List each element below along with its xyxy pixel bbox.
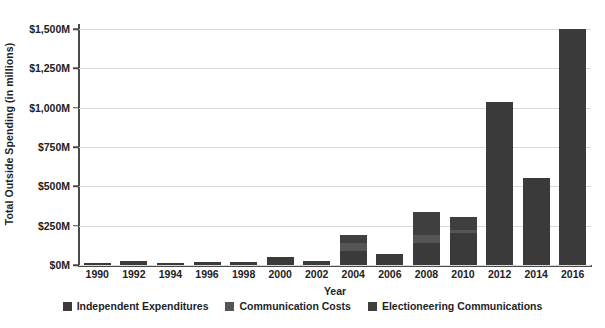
gridline xyxy=(79,265,591,266)
bar-group[interactable] xyxy=(84,263,111,265)
bar-segment[interactable] xyxy=(194,262,221,265)
chart-legend: Independent ExpendituresCommunication Co… xyxy=(0,300,605,312)
x-axis-tick-label: 2016 xyxy=(561,268,584,280)
bar-segment[interactable] xyxy=(413,212,440,235)
bar-segment[interactable] xyxy=(340,235,367,244)
bar-segment[interactable] xyxy=(340,251,367,265)
bar-group[interactable] xyxy=(303,261,330,265)
bar-segment[interactable] xyxy=(523,178,550,265)
bar-segment[interactable] xyxy=(157,263,184,265)
legend-item[interactable]: Electioneering Communications xyxy=(368,300,542,312)
bar-segment[interactable] xyxy=(413,235,440,242)
bar-segment[interactable] xyxy=(340,243,367,251)
x-axis-tick-label: 2004 xyxy=(342,268,365,280)
bar-group[interactable] xyxy=(340,235,367,265)
bar-segment[interactable] xyxy=(376,254,403,265)
legend-item[interactable]: Independent Expenditures xyxy=(63,300,209,312)
x-axis-tick-label: 1996 xyxy=(195,268,218,280)
x-axis-tick-label: 2008 xyxy=(415,268,438,280)
x-axis-title: Year xyxy=(79,285,591,297)
bar-segment[interactable] xyxy=(303,261,330,265)
bar-segment[interactable] xyxy=(559,29,586,265)
legend-swatch-icon xyxy=(63,302,72,311)
bar-segment[interactable] xyxy=(486,102,513,265)
x-axis-tick-label: 1992 xyxy=(122,268,145,280)
x-axis-tick-label: 2006 xyxy=(378,268,401,280)
bar-group[interactable] xyxy=(559,29,586,265)
bar-segment[interactable] xyxy=(120,261,147,265)
bar-group[interactable] xyxy=(157,263,184,265)
bar-segment[interactable] xyxy=(230,262,257,265)
plot-area xyxy=(79,29,591,265)
bars-layer xyxy=(79,29,591,265)
legend-swatch-icon xyxy=(368,302,377,311)
y-axis-tick-label: $1,000M xyxy=(0,102,70,114)
bar-group[interactable] xyxy=(413,212,440,265)
y-axis-tick-label: $1,250M xyxy=(0,62,70,74)
chart-container: Total Outside Spending (in millions) $0M… xyxy=(0,0,605,328)
bar-group[interactable] xyxy=(376,254,403,265)
bar-segment[interactable] xyxy=(450,217,477,230)
bar-group[interactable] xyxy=(230,262,257,265)
legend-item[interactable]: Communication Costs xyxy=(225,300,350,312)
bar-group[interactable] xyxy=(523,178,550,265)
bar-segment[interactable] xyxy=(450,233,477,265)
bar-group[interactable] xyxy=(194,262,221,265)
bar-group[interactable] xyxy=(120,261,147,265)
x-axis-tick-label: 1994 xyxy=(159,268,182,280)
x-axis-tick-label: 2010 xyxy=(451,268,474,280)
y-axis-tick-label: $0M xyxy=(0,259,70,271)
x-axis-tick-label: 1990 xyxy=(86,268,109,280)
y-axis-tick-label: $750M xyxy=(0,141,70,153)
bar-segment[interactable] xyxy=(84,263,111,265)
bar-segment[interactable] xyxy=(413,243,440,265)
bar-segment[interactable] xyxy=(267,257,294,265)
legend-label: Communication Costs xyxy=(239,300,350,312)
y-axis-tick-labels: $0M$250M$500M$750M$1,000M$1,250M$1,500M xyxy=(0,0,79,328)
y-axis-tick-label: $250M xyxy=(0,220,70,232)
x-axis-tick-label: 1998 xyxy=(232,268,255,280)
x-axis-tick-label: 2002 xyxy=(305,268,328,280)
legend-label: Independent Expenditures xyxy=(77,300,209,312)
legend-label: Electioneering Communications xyxy=(382,300,542,312)
bar-group[interactable] xyxy=(486,102,513,265)
y-axis-tick-label: $500M xyxy=(0,180,70,192)
x-axis-tick-labels: 1990199219941996199820002002200420062008… xyxy=(79,268,591,284)
x-axis-tick-label: 2000 xyxy=(268,268,291,280)
y-axis-tick-label: $1,500M xyxy=(0,23,70,35)
bar-group[interactable] xyxy=(450,217,477,265)
legend-swatch-icon xyxy=(225,302,234,311)
x-axis-tick-label: 2014 xyxy=(524,268,547,280)
bar-group[interactable] xyxy=(267,257,294,265)
x-axis-tick-label: 2012 xyxy=(488,268,511,280)
